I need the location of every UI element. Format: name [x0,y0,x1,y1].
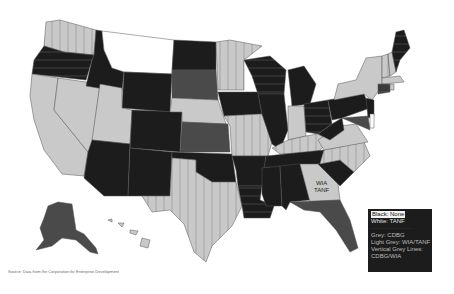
state-new-york [334,56,382,100]
state-wyoming [122,72,172,112]
state-iowa [218,92,262,116]
legend-item-white-tanf: White: TANF [371,218,429,225]
state-arizona [84,140,130,196]
state-connecticut [378,84,390,94]
state-kansas [180,122,230,152]
georgia-annotation-line-2: TANF [314,187,329,194]
legend-item-light-grey-wia-tanf: Light Grey: WIA/TANF [371,239,429,246]
legend-item-cdbg-wia: CDBG/WIA [371,253,429,260]
legend-item-divider: ——————— [371,225,429,232]
state-alaska [36,202,98,254]
state-delaware [370,114,374,128]
legend-item-black-none: Black: None [371,211,405,218]
state-mississippi [262,166,282,206]
state-montana [102,31,174,74]
state-arkansas [232,156,266,186]
state-indiana [288,106,306,140]
source-note: Source: Data from the Corporation for En… [8,269,119,274]
state-wisconsin [244,56,286,94]
georgia-annotation: WIA TANF [314,180,329,194]
state-south-dakota [172,70,218,100]
legend-item-vertical-lines: Vertical Grey Lines: [371,246,429,253]
state-maine [392,30,410,72]
legend-item-grey-cdbg: Grey: CDBG [371,232,429,239]
state-new-mexico [128,148,172,196]
state-colorado [130,110,182,152]
state-north-dakota [172,40,216,70]
state-florida [290,200,358,252]
state-michigan [288,66,316,106]
state-hawaii [108,219,150,248]
state-rhode-island [390,84,394,90]
map-legend: Black: None White: TANF ——————— Grey: CD… [368,209,432,272]
georgia-annotation-line-1: WIA [314,180,329,187]
